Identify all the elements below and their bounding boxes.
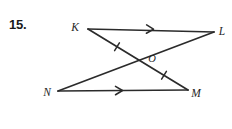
segment-km: [88, 29, 188, 90]
tick-on-ko-icon: [115, 43, 120, 51]
vertex-label-m: M: [190, 87, 202, 99]
figure-root: 15. K L N M O: [0, 0, 232, 129]
segment-nl: [58, 32, 214, 91]
vertex-label-k: K: [70, 21, 80, 33]
vertex-label-l: L: [218, 25, 225, 37]
arrow-on-kl-icon: [146, 25, 153, 34]
geometry-diagram: K L N M O: [0, 0, 232, 129]
intersection-label-o: O: [148, 53, 156, 64]
vertex-label-n: N: [42, 86, 52, 98]
